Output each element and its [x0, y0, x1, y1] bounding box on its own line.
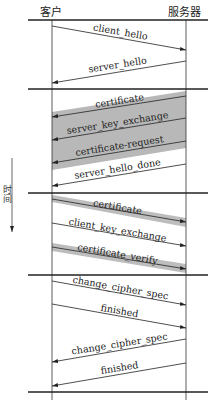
msg-label: finished: [100, 302, 140, 319]
msg-label: change_cipher_spec: [72, 274, 170, 303]
msg-label: client_hello: [92, 21, 149, 42]
msg-label: finished: [100, 359, 139, 376]
msg-label: change_cipher_spec: [71, 331, 169, 358]
handshake-diagram: client_hello server_hello certificate se…: [0, 0, 218, 414]
